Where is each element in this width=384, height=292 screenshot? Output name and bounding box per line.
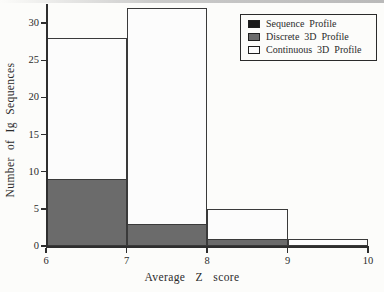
- legend-item-discrete-3d-profile: Discrete 3D Profile: [248, 31, 373, 43]
- x-tick-9: [287, 248, 288, 253]
- x-tick-label-7: 7: [116, 255, 138, 267]
- x-tick-6: [45, 248, 46, 253]
- y-tick-label-10: 10: [13, 166, 39, 178]
- x-tick-8: [206, 248, 207, 253]
- black-swatch-icon: [248, 20, 260, 28]
- figure: Number of Ig Sequences 05101520253067891…: [0, 0, 384, 292]
- bar-discrete-3d-profile-bin-7-8: [127, 224, 208, 246]
- legend-label: Sequence Profile: [266, 18, 337, 30]
- x-tick-label-10: 10: [357, 255, 379, 267]
- x-tick-10: [367, 248, 368, 253]
- x-tick-label-9: 9: [277, 255, 299, 267]
- legend-label: Continuous 3D Profile: [266, 44, 362, 56]
- y-tick-label-20: 20: [13, 91, 39, 103]
- x-axis-label: Average Z score: [0, 271, 384, 283]
- legend-item-continuous-3d-profile: Continuous 3D Profile: [248, 44, 373, 56]
- y-tick-label-5: 5: [13, 203, 39, 215]
- y-axis-line: [46, 4, 48, 248]
- white-swatch-icon: [248, 46, 260, 54]
- legend: Sequence Profile Discrete 3D Profile Con…: [240, 14, 377, 61]
- x-tick-label-6: 6: [35, 255, 57, 267]
- legend-label: Discrete 3D Profile: [266, 31, 349, 43]
- scan-edge-artifact: [0, 0, 384, 3]
- y-tick-label-15: 15: [13, 129, 39, 141]
- bar-continuous-3d-profile-bin-7-8: [127, 8, 208, 246]
- bar-continuous-3d-profile-bin-9-10: [288, 239, 369, 246]
- x-tick-label-8: 8: [196, 255, 218, 267]
- x-tick-7: [126, 248, 127, 253]
- x-axis-line: [46, 246, 369, 248]
- gray-swatch-icon: [248, 33, 260, 41]
- legend-item-sequence-profile: Sequence Profile: [248, 18, 373, 30]
- bar-discrete-3d-profile-bin-8-9: [207, 239, 288, 246]
- y-tick-label-30: 30: [13, 17, 39, 29]
- y-tick-label-25: 25: [13, 54, 39, 66]
- bar-discrete-3d-profile-bin-6-7: [46, 179, 127, 246]
- y-tick-label-0: 0: [13, 240, 39, 252]
